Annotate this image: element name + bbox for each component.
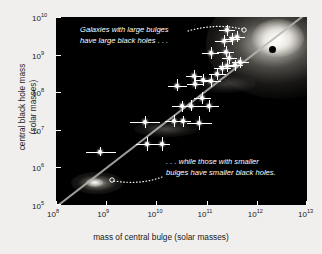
x-tick-label: 1010: [147, 208, 162, 219]
y-axis-tick: [56, 92, 61, 93]
x-tick-label: 1013: [298, 208, 313, 219]
annotation-large-bulges: Galaxies with large bulges have large bl…: [80, 25, 169, 46]
data-point-marker: [175, 84, 179, 88]
data-point-marker: [233, 63, 237, 67]
x-tick-label: 1011: [198, 208, 213, 219]
data-point-marker: [209, 79, 213, 83]
x-axis-tick: [207, 201, 208, 205]
data-point-marker: [209, 51, 213, 55]
y-axis-tick: [56, 130, 61, 131]
y-axis-tick: [56, 204, 61, 205]
data-point-marker: [224, 50, 228, 54]
y-axis-tick: [56, 55, 61, 56]
x-tick-label: 108: [47, 208, 59, 219]
annotation-large-bulges-line2: have large black holes . . .: [80, 36, 168, 45]
annotation-small-bulges-line2: bulges have smaller black holes.: [166, 168, 276, 177]
annotation-large-bulges-line1: Galaxies with large bulges: [80, 25, 169, 34]
plot-area: Galaxies with large bulges have large bl…: [56, 17, 307, 205]
x-axis-tick: [106, 201, 107, 205]
x-axis-tick: [257, 201, 258, 205]
figure-root: Galaxies with large bulges have large bl…: [0, 0, 322, 254]
data-point-marker: [197, 121, 201, 125]
black-hole-dot: [269, 46, 276, 53]
x-axis-title: mass of central bulge (solar masses): [0, 232, 322, 242]
y-tick-label: 105: [32, 200, 44, 211]
data-point-marker: [207, 104, 211, 108]
x-axis-tick: [306, 201, 307, 205]
y-axis-tick: [56, 17, 61, 18]
data-point-marker: [98, 150, 102, 154]
y-axis-title-line1: central black hole mass: [17, 17, 28, 197]
y-axis-title-line2: (solar masses): [28, 17, 39, 197]
data-point-marker: [192, 74, 196, 78]
data-point-marker: [235, 35, 239, 39]
data-point-marker: [200, 96, 204, 100]
x-tick-label: 109: [97, 208, 109, 219]
y-axis-tick: [56, 167, 61, 168]
y-axis-title: central black hole mass (solar masses): [17, 17, 39, 197]
x-axis-tick: [156, 201, 157, 205]
x-tick-label: 1012: [248, 208, 263, 219]
annotation-small-bulges-line1: . . . while those with smaller: [166, 157, 259, 166]
annotation-small-bulges: . . . while those with smaller bulges ha…: [166, 157, 276, 178]
